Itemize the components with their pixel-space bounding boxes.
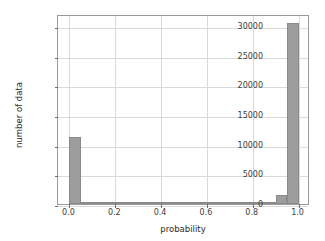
x-tick-label: 0.6	[186, 209, 226, 217]
histogram-bar	[230, 202, 241, 204]
histogram-bar	[161, 202, 172, 204]
x-tick-label: 1.0	[278, 209, 318, 217]
y-tick-label: 10000	[238, 142, 263, 150]
x-tick	[299, 204, 300, 208]
x-tick	[161, 204, 162, 208]
y-tick-label: 15000	[238, 112, 263, 120]
histogram-bar	[184, 202, 195, 204]
histogram-bar	[241, 202, 252, 204]
histogram-bar	[115, 202, 126, 204]
histogram-bar	[195, 202, 206, 204]
histogram-bar	[173, 202, 184, 204]
histogram-bar	[127, 202, 138, 204]
histogram-figure: 050001000015000200002500030000 0.00.20.4…	[0, 0, 325, 241]
y-tick-label: 5000	[243, 171, 263, 179]
y-tick	[55, 206, 59, 207]
y-tick-label: 30000	[238, 23, 263, 31]
x-tick-label: 0.4	[140, 209, 180, 217]
bar-series	[58, 16, 308, 204]
x-axis-title: probability	[57, 224, 309, 234]
histogram-bar	[104, 202, 115, 204]
x-tick	[115, 204, 116, 208]
histogram-bar	[92, 202, 103, 204]
histogram-bar	[207, 202, 218, 204]
y-tick	[55, 58, 59, 59]
histogram-bar	[218, 202, 229, 204]
y-axis-title: number of data	[14, 55, 24, 175]
x-tick-label: 0.0	[48, 209, 88, 217]
plot-area	[57, 15, 309, 205]
histogram-bar	[138, 202, 149, 204]
gridline-horizontal	[58, 206, 308, 207]
y-tick-label: 25000	[238, 53, 263, 61]
histogram-bar	[150, 202, 161, 204]
x-tick	[253, 204, 254, 208]
y-tick	[55, 87, 59, 88]
x-tick-label: 0.2	[94, 209, 134, 217]
x-tick-label: 0.8	[232, 209, 272, 217]
histogram-bar	[287, 23, 298, 204]
x-tick	[207, 204, 208, 208]
histogram-bar	[81, 202, 92, 204]
histogram-bar	[264, 202, 275, 204]
y-tick	[55, 147, 59, 148]
x-tick	[69, 204, 70, 208]
y-tick	[55, 117, 59, 118]
y-tick-label: 0	[258, 201, 263, 209]
y-tick	[55, 28, 59, 29]
histogram-bar	[276, 195, 287, 204]
y-tick-label: 20000	[238, 82, 263, 90]
histogram-bar	[69, 137, 80, 204]
y-tick	[55, 176, 59, 177]
